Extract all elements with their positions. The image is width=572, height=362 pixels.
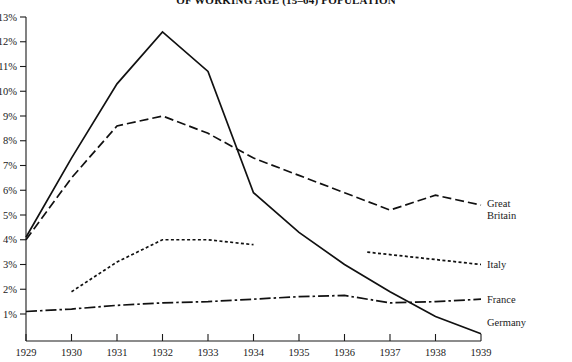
x-tick-label: 1938 — [425, 347, 446, 358]
series-label-france: France — [487, 294, 516, 305]
x-tick-label: 1939 — [471, 347, 492, 358]
unemployment-line-chart: OF WORKING AGE (15–64) POPULATION German… — [0, 0, 572, 362]
x-tick-label: 1937 — [380, 347, 401, 358]
y-tick-label: 13% — [0, 12, 17, 23]
x-tick-label: 1932 — [152, 347, 173, 358]
series-label-italy: Italy — [487, 259, 507, 270]
y-tick-label: 10% — [0, 86, 17, 97]
y-tick-label: 3% — [3, 259, 17, 270]
x-tick-label: 1934 — [243, 347, 265, 358]
series-line-germany — [26, 32, 481, 334]
x-axis-tick-labels: 1929193019311932193319341935193619371938… — [16, 347, 492, 358]
series-line-great-britain — [26, 116, 481, 240]
y-tick-label: 7% — [3, 160, 17, 171]
x-tick-label: 1936 — [334, 347, 355, 358]
y-axis-tick-labels: 1%2%3%4%5%6%7%8%9%10%11%12%13% — [0, 12, 17, 320]
series-label-group: GermanyGreatBritainItalyFrance — [487, 198, 527, 328]
x-tick-label: 1935 — [289, 347, 310, 358]
y-tick-label: 6% — [3, 185, 17, 196]
y-tick-label: 11% — [0, 61, 17, 72]
data-series-group — [26, 32, 481, 334]
series-line-italy — [367, 252, 481, 264]
x-tick-label: 1929 — [16, 347, 37, 358]
x-tick-label: 1930 — [61, 347, 82, 358]
y-tick-label: 12% — [0, 36, 17, 47]
series-label-great-britain: Great — [487, 198, 510, 209]
y-tick-label: 2% — [3, 284, 17, 295]
x-tick-label: 1931 — [107, 347, 128, 358]
x-tick-label: 1933 — [198, 347, 219, 358]
y-tick-label: 4% — [3, 234, 17, 245]
series-label-germany: Germany — [487, 317, 527, 328]
y-tick-label: 8% — [3, 135, 17, 146]
y-tick-label: 9% — [3, 111, 17, 122]
chart-plot-area: GermanyGreatBritainItalyFrance 192919301… — [0, 0, 572, 362]
series-line-italy — [72, 240, 254, 292]
x-axis-ticks — [26, 334, 481, 341]
y-tick-label: 5% — [3, 210, 17, 221]
series-label-great-britain-line2: Britain — [487, 210, 517, 221]
y-axis-ticks — [20, 17, 26, 314]
y-tick-label: 1% — [3, 309, 17, 320]
